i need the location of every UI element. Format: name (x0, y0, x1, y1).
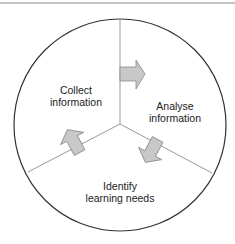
label-analyse: Analyse information (149, 100, 201, 124)
label-collect: Collect information (50, 84, 102, 108)
label-analyse-line1: Analyse (149, 100, 201, 112)
label-collect-line1: Collect (50, 84, 102, 96)
label-identify-line1: Identify (86, 180, 155, 192)
label-analyse-line2: information (149, 112, 201, 124)
label-identify: Identify learning needs (86, 180, 155, 204)
label-collect-line2: information (50, 96, 102, 108)
label-identify-line2: learning needs (86, 192, 155, 204)
